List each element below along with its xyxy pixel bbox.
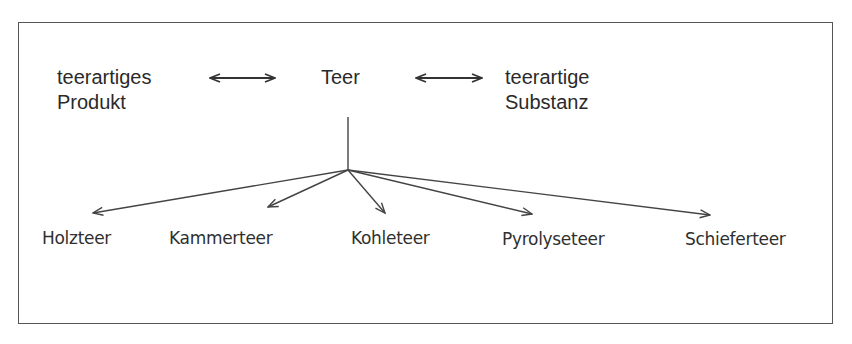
connector-layer	[0, 0, 852, 344]
leaf-pyrolyseteer: Pyrolyseteer	[502, 229, 604, 249]
label-line-2: Produkt	[57, 90, 152, 115]
branch-arrow-schieferteer	[348, 170, 710, 215]
leaf-schieferteer: Schieferteer	[685, 229, 786, 249]
label-teerartige-substanz: teerartige Substanz	[505, 65, 590, 115]
leaf-kohleteer: Kohleteer	[351, 228, 430, 248]
label-teer: Teer	[321, 65, 360, 90]
branch-arrow-kohleteer	[348, 170, 385, 213]
label-teerartiges-produkt: teerartiges Produkt	[57, 65, 152, 115]
leaf-holzteer: Holzteer	[42, 228, 111, 248]
label-line-2: Substanz	[505, 90, 590, 115]
label-line-1: teerartiges	[57, 65, 152, 90]
branch-arrow-kammerteer	[268, 170, 348, 207]
label-line-1: teerartige	[505, 65, 590, 90]
branch-arrow-pyrolyseteer	[348, 170, 532, 214]
leaf-kammerteer: Kammerteer	[169, 228, 272, 248]
branch-arrow-holzteer	[93, 170, 348, 213]
